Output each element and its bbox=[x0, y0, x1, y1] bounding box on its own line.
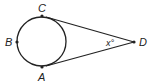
point-c bbox=[40, 14, 43, 17]
point-a bbox=[40, 65, 43, 68]
circle bbox=[17, 17, 66, 66]
geometry-diagram: C B A D x° bbox=[0, 0, 151, 82]
point-d bbox=[132, 40, 135, 43]
label-a: A bbox=[37, 71, 45, 82]
tangent-line-da bbox=[46, 42, 134, 66]
label-d: D bbox=[139, 36, 147, 48]
point-b bbox=[15, 40, 18, 43]
label-c: C bbox=[38, 2, 46, 14]
tangent-line-dc bbox=[46, 17, 134, 42]
angle-label-x: x° bbox=[105, 38, 115, 48]
label-b: B bbox=[5, 36, 12, 48]
